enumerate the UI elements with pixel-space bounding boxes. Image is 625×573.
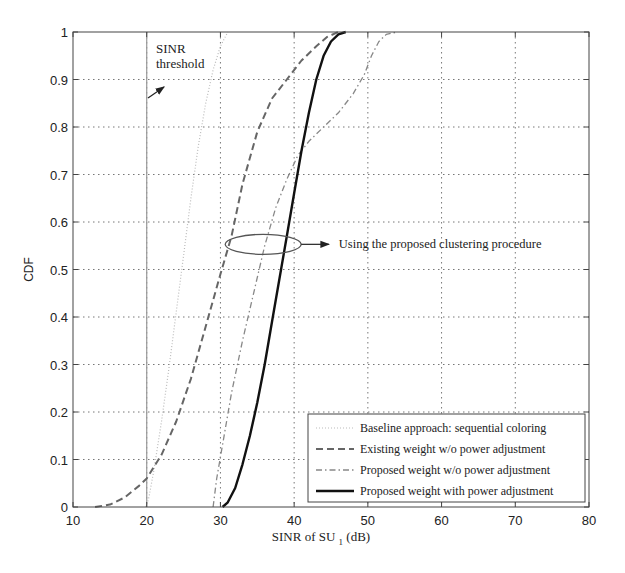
threshold-arrow-icon xyxy=(148,87,164,98)
y-axis-label: CDF xyxy=(22,257,36,282)
annotation-sinr-threshold: SINR xyxy=(156,41,186,56)
x-tick-label: 60 xyxy=(434,513,448,528)
x-tick-label: 10 xyxy=(66,513,80,528)
y-tick-label: 0.3 xyxy=(50,358,68,373)
annotation-clustering: Using the proposed clustering procedure xyxy=(339,237,542,251)
y-tick-label: 0.2 xyxy=(50,405,68,420)
annotations: SINRthresholdUsing the proposed clusteri… xyxy=(148,41,542,254)
legend-label-3: Proposed weight with power adjustment xyxy=(360,484,554,498)
annotation-sinr-threshold: threshold xyxy=(156,56,205,71)
x-tick-label: 20 xyxy=(139,513,153,528)
x-tick-label: 80 xyxy=(582,513,596,528)
y-tick-label: 0.8 xyxy=(50,120,68,135)
x-tick-label: 70 xyxy=(508,513,522,528)
y-tick-label: 0.7 xyxy=(50,168,68,183)
x-tick-label: 50 xyxy=(361,513,375,528)
legend-label-0: Baseline approach: sequential coloring xyxy=(360,421,546,435)
y-tick-label: 0.6 xyxy=(50,215,68,230)
y-tick-label: 1 xyxy=(61,25,68,40)
cdf-chart: 1020304050607080 00.10.20.30.40.50.60.70… xyxy=(0,0,625,573)
legend-label-2: Proposed weight w/o power adjustment xyxy=(360,463,551,477)
x-tick-label: 30 xyxy=(213,513,227,528)
x-axis-label: SINR of SU 1 (dB) xyxy=(272,529,370,547)
legend: Baseline approach: sequential coloringEx… xyxy=(308,414,585,502)
x-tick-label: 40 xyxy=(287,513,301,528)
series-line-1 xyxy=(95,32,338,507)
y-tick-label: 0.4 xyxy=(50,310,68,325)
y-tick-label: 0.9 xyxy=(50,73,68,88)
y-tick-label: 0.5 xyxy=(50,263,68,278)
y-tick-label: 0 xyxy=(61,500,68,515)
legend-label-1: Existing weight w/o power adjustment xyxy=(360,442,546,456)
y-tick-label: 0.1 xyxy=(50,453,68,468)
